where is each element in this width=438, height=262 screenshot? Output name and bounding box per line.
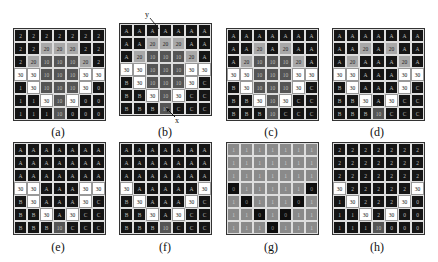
grid-cell: 1 — [305, 143, 318, 156]
grid-cell: 30 — [385, 94, 398, 107]
grid-cell: A — [372, 29, 385, 42]
grid-cell: 0 — [266, 221, 279, 234]
grid-cell: 10 — [66, 55, 79, 68]
grid-cell: 20 — [346, 55, 359, 68]
grid-cell: 20 — [385, 42, 398, 55]
grid-cell: C — [92, 221, 105, 234]
grid-cell: B — [133, 208, 146, 221]
grid-cell: C — [185, 221, 198, 234]
grid-cell: A — [40, 182, 53, 195]
grid-cell: 0 — [92, 94, 105, 107]
grid-cell: 2 — [359, 156, 372, 169]
grid-cell: C — [92, 208, 105, 221]
panel-b: AAAAAAAAA202020AAA2010101020A30301010103… — [119, 23, 212, 116]
grid-cell: A — [120, 143, 133, 156]
grid-cell: 10 — [172, 76, 185, 89]
grid-cell: A — [240, 29, 253, 42]
grid-cell: A — [198, 143, 211, 156]
grid-cell: 10 — [66, 81, 79, 94]
grid-cell: A — [40, 143, 53, 156]
grid-cell: 10 — [146, 76, 159, 89]
grid-cell: A — [53, 143, 66, 156]
grid-cell: 30 — [385, 208, 398, 221]
grid-cell: A — [27, 143, 40, 156]
grid-cell: A — [185, 143, 198, 156]
grid-cell: 1 — [292, 221, 305, 234]
grid-cell: 0 — [411, 208, 424, 221]
grid-cell: C — [198, 102, 211, 115]
grid-cell: B — [120, 208, 133, 221]
grid-cell: A — [305, 55, 318, 68]
grid-cell: A — [133, 143, 146, 156]
grid-cell: B — [120, 221, 133, 234]
grid-cell: A — [172, 182, 185, 195]
grid-cell: C — [185, 102, 198, 115]
grid-cell: 2 — [346, 182, 359, 195]
grid-cell: 30 — [14, 68, 27, 81]
grid-cell: 10 — [266, 94, 279, 107]
grid-cell: 30 — [79, 81, 92, 94]
grid-cell: 20 — [146, 37, 159, 50]
grid-cell: C — [198, 208, 211, 221]
grid-cell: B — [14, 208, 27, 221]
grid-cell: A — [172, 169, 185, 182]
grid-cell: A — [159, 143, 172, 156]
grid-cell: 2 — [398, 169, 411, 182]
grid-cell: 30 — [133, 63, 146, 76]
grid-cell: A — [198, 24, 211, 37]
grid-h: 2222222222222222222223022222301302223001… — [332, 142, 425, 235]
panel-a: 2222222222020202222010101020230301010103… — [13, 28, 106, 121]
grid-cell: 1 — [40, 107, 53, 120]
grid-cell: 0 — [398, 208, 411, 221]
grid-cell: A — [133, 156, 146, 169]
grid-cell: 30 — [292, 68, 305, 81]
grid-cell: 10 — [53, 94, 66, 107]
grid-cell: 1 — [305, 156, 318, 169]
grid-cell: 10 — [53, 68, 66, 81]
grid-cell: 2 — [27, 42, 40, 55]
grid-cell: A — [159, 156, 172, 169]
grid-cell: A — [53, 169, 66, 182]
grid-cell: A — [146, 156, 159, 169]
grid-cell: A — [40, 195, 53, 208]
grid-cell: A — [266, 29, 279, 42]
grid-cell: 10 — [146, 63, 159, 76]
grid-cell: C — [398, 94, 411, 107]
grid-cell: 0 — [227, 182, 240, 195]
grid-cell: 1 — [240, 143, 253, 156]
grid-cell: 2 — [385, 169, 398, 182]
grid-cell: 2 — [385, 182, 398, 195]
grid-cell: 30 — [227, 68, 240, 81]
grid-cell: 10 — [159, 89, 172, 102]
grid-cell: 10 — [172, 63, 185, 76]
grid-b: AAAAAAAAA202020AAA2010101020A30301010103… — [119, 23, 212, 116]
grid-cell: 10 — [279, 55, 292, 68]
grid-cell: 2 — [411, 143, 424, 156]
panel-g: 1111111111111111111110111110101110111010… — [226, 142, 319, 235]
grid-cell: 30 — [120, 63, 133, 76]
grid-cell: A — [185, 169, 198, 182]
grid-cell: 30 — [292, 81, 305, 94]
grid-cell: A — [385, 29, 398, 42]
grid-cell: C — [305, 94, 318, 107]
grid-cell: C — [79, 208, 92, 221]
grid-cell: C — [172, 221, 185, 234]
grid-cell: 10 — [266, 107, 279, 120]
grid-cell: A — [385, 81, 398, 94]
grid-cell: 1 — [253, 169, 266, 182]
grid-cell: 30 — [185, 76, 198, 89]
grid-cell: 10 — [53, 55, 66, 68]
grid-cell: A — [240, 42, 253, 55]
grid-cell: 30 — [240, 81, 253, 94]
grid-cell: A — [305, 42, 318, 55]
grid-cell: C — [305, 81, 318, 94]
grid-cell: B — [40, 221, 53, 234]
grid-cell: A — [333, 42, 346, 55]
grid-cell: A — [66, 156, 79, 169]
grid-cell: C — [398, 107, 411, 120]
grid-cell: B — [27, 208, 40, 221]
grid-cell: 2 — [79, 42, 92, 55]
grid-cell: 1 — [292, 156, 305, 169]
caption-g: (g) — [225, 240, 317, 255]
grid-cell: 1 — [240, 208, 253, 221]
